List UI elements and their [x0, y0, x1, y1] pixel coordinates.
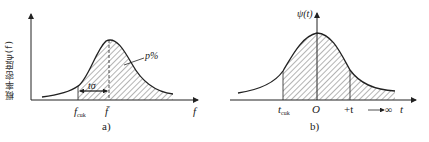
panel-a-area-label: p% [145, 51, 158, 61]
panel-a [31, 14, 198, 100]
panel-b-x-axis-label: t [400, 104, 403, 115]
panel-a-f-cuk-sub: cuk [77, 112, 86, 118]
panel-b-t-cuk-tick: tcuk [278, 104, 290, 116]
panel-b-caption: b) [310, 121, 319, 132]
panel-a-y-axis-label: 概率密度ψ(f) [2, 40, 18, 100]
panel-b-hatched-area [283, 33, 395, 100]
panel-a-x-axis-label: f [193, 106, 196, 117]
panel-b-t-cuk-sub: cuk [281, 110, 290, 116]
probability-density-diagram [0, 0, 429, 142]
panel-b-origin-tick: O [312, 104, 320, 115]
panel-a-t-sigma-label: tσ [88, 81, 96, 91]
panel-a-f-cuk-tick: fcuk [74, 106, 86, 118]
panel-b [230, 13, 416, 110]
panel-a-caption: a) [102, 121, 111, 132]
panel-b-plus-t-tick: +t [344, 104, 353, 115]
panel-a-mean-tick: f̄ [105, 106, 108, 117]
panel-b-infinity-symbol: ∞ [385, 105, 392, 115]
panel-b-y-axis-label: ψ(t) [297, 9, 313, 19]
